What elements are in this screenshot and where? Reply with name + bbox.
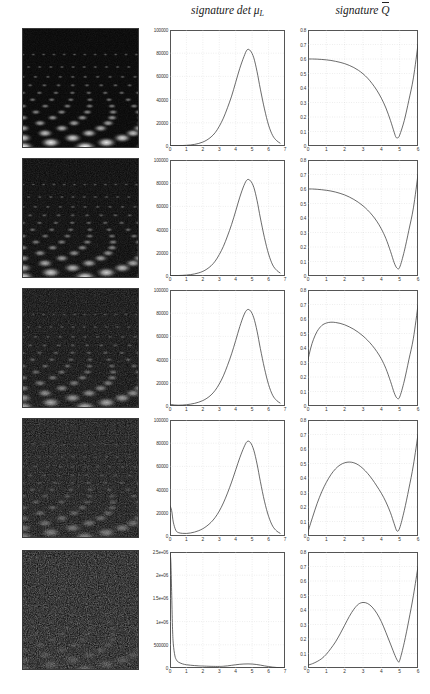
- x-axis-tick-label: 4: [380, 147, 383, 152]
- column-header-left-text: signature det: [191, 4, 251, 16]
- figure-panel-grid: signature det μL signature Q 02000040000…: [0, 0, 430, 694]
- y-axis-tick-label: 80000: [156, 311, 168, 316]
- x-axis-tick-label: 3: [362, 147, 365, 152]
- y-axis-tick-label: 0.1: [300, 389, 306, 394]
- x-axis-tick-label: 0: [169, 407, 172, 412]
- y-axis-tick-label: 0: [304, 666, 306, 671]
- y-axis-tick-label: 0.3: [300, 622, 306, 627]
- y-axis-tick-label: 0.6: [300, 317, 306, 322]
- y-axis-tick-label: 0.6: [300, 579, 306, 584]
- x-axis-tick-label: 3: [218, 537, 221, 542]
- x-axis-tick-label: 6: [417, 537, 420, 542]
- y-axis-tick-label: 0: [304, 534, 306, 539]
- y-axis-tick-label: 40000: [156, 97, 168, 102]
- y-axis-tick-label: 0.1: [300, 259, 306, 264]
- texture-canvas: [23, 159, 139, 278]
- plot-row1-left: 02000040000600008000010000001234567: [170, 30, 285, 146]
- plot-canvas: [170, 552, 285, 668]
- y-axis-tick-label: 0.4: [300, 86, 306, 91]
- x-axis-tick-label: 1: [185, 147, 188, 152]
- y-axis-tick-label: 0.2: [300, 245, 306, 250]
- x-axis-tick-label: 7: [284, 407, 287, 412]
- plot-row2-left: 02000040000600008000010000001234567: [170, 160, 285, 276]
- y-axis-tick-label: 0.3: [300, 230, 306, 235]
- x-axis-tick-label: 4: [234, 537, 237, 542]
- y-axis-tick-label: 80000: [156, 51, 168, 56]
- y-axis-tick-label: 0.7: [300, 432, 306, 437]
- plot-gridlines: [170, 552, 285, 668]
- x-axis-tick-label: 1: [325, 147, 328, 152]
- x-axis-tick-label: 7: [284, 147, 287, 152]
- plot-canvas: [170, 420, 285, 536]
- x-axis-tick-label: 4: [234, 407, 237, 412]
- x-axis-tick-label: 4: [380, 407, 383, 412]
- x-axis-tick-label: 5: [251, 277, 254, 282]
- y-axis-tick-label: 0.7: [300, 302, 306, 307]
- texture-image-row-1: [22, 28, 139, 148]
- y-axis-tick-label: 0.3: [300, 490, 306, 495]
- figure-row-4: 0200004000060000800001000000123456700.10…: [0, 414, 430, 544]
- plot-row4-right: 00.10.20.30.40.50.60.70.80123456: [308, 420, 418, 536]
- texture-image-row-5: [22, 550, 139, 670]
- x-axis-tick-label: 2: [202, 147, 205, 152]
- y-axis-tick-label: 0.2: [300, 375, 306, 380]
- y-axis-tick-label: 20000: [156, 120, 168, 125]
- y-axis-tick-label: 500000: [154, 642, 168, 647]
- x-axis-tick-label: 5: [251, 407, 254, 412]
- plot-row4-left: 02000040000600008000010000001234567: [170, 420, 285, 536]
- x-axis-tick-label: 5: [251, 669, 254, 674]
- y-axis-tick-label: 0.1: [300, 519, 306, 524]
- column-header-q-bar: signature Q: [305, 4, 420, 16]
- texture-canvas: [23, 551, 139, 670]
- x-axis-tick-label: 1: [325, 537, 328, 542]
- x-axis-tick-label: 2: [202, 277, 205, 282]
- figure-row-3: 0200004000060000800001000000123456700.10…: [0, 284, 430, 414]
- y-axis-tick-label: 0.4: [300, 608, 306, 613]
- x-axis-tick-label: 0: [169, 147, 172, 152]
- y-axis-tick-label: 0.5: [300, 201, 306, 206]
- y-axis-tick-label: 2e+06: [156, 573, 168, 578]
- y-axis-tick-label: 2.5e+06: [153, 550, 168, 555]
- x-axis-tick-label: 0: [307, 407, 310, 412]
- x-axis-tick-label: 3: [362, 407, 365, 412]
- texture-image-row-2: [22, 158, 139, 278]
- y-axis-tick-label: 0.7: [300, 172, 306, 177]
- y-axis-tick-label: 100000: [154, 158, 168, 163]
- y-axis-tick-label: 0.8: [300, 418, 306, 423]
- x-axis-tick-label: 2: [343, 407, 346, 412]
- x-axis-tick-label: 5: [398, 537, 401, 542]
- plot-curve: [308, 175, 418, 270]
- y-axis-tick-label: 0.5: [300, 71, 306, 76]
- x-axis-tick-label: 0: [169, 277, 172, 282]
- y-axis-tick-label: 0: [304, 144, 306, 149]
- y-axis-tick-label: 60000: [156, 334, 168, 339]
- y-axis-tick-label: 0: [166, 274, 168, 279]
- plot-gridlines: [308, 552, 418, 668]
- x-axis-tick-label: 1: [325, 669, 328, 674]
- y-axis-tick-label: 100000: [154, 28, 168, 33]
- x-axis-tick-label: 5: [251, 147, 254, 152]
- x-axis-tick-label: 3: [362, 669, 365, 674]
- y-axis-tick-label: 0.6: [300, 57, 306, 62]
- y-axis-tick-label: 0.5: [300, 461, 306, 466]
- x-axis-tick-label: 0: [169, 669, 172, 674]
- texture-canvas: [23, 419, 139, 538]
- x-axis-tick-label: 0: [307, 669, 310, 674]
- x-axis-tick-label: 3: [218, 147, 221, 152]
- y-axis-tick-label: 0: [166, 666, 168, 671]
- y-axis-tick-label: 40000: [156, 227, 168, 232]
- x-axis-tick-label: 2: [202, 537, 205, 542]
- texture-image-row-4: [22, 418, 139, 538]
- y-axis-tick-label: 0.4: [300, 216, 306, 221]
- x-axis-tick-label: 6: [417, 669, 420, 674]
- y-axis-tick-label: 0.8: [300, 158, 306, 163]
- x-axis-tick-label: 2: [202, 407, 205, 412]
- x-axis-tick-label: 7: [284, 277, 287, 282]
- plot-gridlines: [170, 290, 285, 406]
- x-axis-tick-label: 2: [202, 669, 205, 674]
- q-bar-symbol: Q: [381, 4, 389, 16]
- y-axis-tick-label: 0.2: [300, 637, 306, 642]
- x-axis-tick-label: 1: [185, 669, 188, 674]
- x-axis-tick-label: 5: [398, 277, 401, 282]
- plot-canvas: [308, 290, 418, 406]
